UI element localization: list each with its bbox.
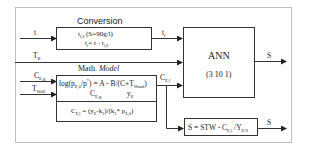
conversion-eq-2: tr= t - tl,0 [85, 40, 108, 48]
signal-TWall-label: TWall [32, 85, 45, 95]
signal-tr-label: tr [162, 29, 166, 39]
signal-S-substrate-label: S [267, 119, 271, 127]
signal-CEg-label: CE,g [34, 72, 45, 82]
ann-topology: (3 10 1) [206, 71, 231, 79]
substrate-block: S = STW - CE,l /YE/S [184, 118, 258, 136]
signal-CEl-label: CE,l [160, 74, 170, 84]
signal-TB-label: TB [33, 52, 41, 62]
ann-title: ANN [208, 51, 230, 61]
signal-S-ann-label: S [267, 52, 271, 60]
ann-block: ANN (3 10 1) [183, 27, 255, 98]
math-model-title: Math. Model [78, 65, 119, 73]
yE-label: yE [127, 90, 134, 100]
math-model-block: log(pE,0/p*) = A - B/(C+TWand) CE,g yE C… [56, 75, 157, 122]
signal-t-label: t [34, 29, 36, 37]
substrate-equation: S = STW - CE,l /YE/S [188, 124, 248, 134]
math-model-divider [57, 101, 156, 102]
antoine-equation: log(pE,0/p*) = A - B/(C+TWand) [59, 79, 147, 89]
conversion-eq-1: tl,0 (S=90g/l) [78, 31, 113, 39]
conversion-title: Conversion [77, 17, 123, 26]
cEl-equation: CE,l = (yE-k1)/(k2* pE,0) [71, 108, 133, 116]
cEg-label: CE,g [90, 90, 101, 100]
conversion-block: tl,0 (S=90g/l) tr= t - tl,0 [56, 27, 152, 50]
